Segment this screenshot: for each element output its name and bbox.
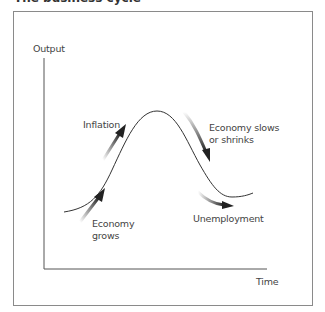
unemployment-label: Unemployment [193,213,264,225]
economy-slows-arrow-icon [184,112,210,162]
economy-grows-arrow-icon [80,188,105,222]
unemployment-arrow-icon [198,192,234,209]
economy-slows-label-line2: or shrinks [209,134,254,146]
economy-grows-label-line1: Economy [92,218,134,230]
y-axis-label: Output [33,43,65,55]
economy-slows-label-line1: Economy slows [209,122,279,134]
x-axis-label: Time [256,276,278,288]
economy-grows-label-line2: grows [92,230,119,242]
inflation-label: Inflation [83,119,120,131]
